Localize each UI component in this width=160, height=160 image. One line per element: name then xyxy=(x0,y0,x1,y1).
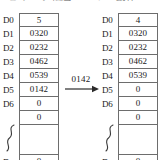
table-row-ellipsis xyxy=(101,125,158,155)
table-row: D1 0320 xyxy=(101,27,158,41)
table-row: D3 0462 xyxy=(101,55,158,69)
register-value: 0142 xyxy=(19,83,59,97)
register-value: 4 xyxy=(118,13,158,27)
table-row: Dn 0 xyxy=(101,155,158,160)
table-row: D4 0539 xyxy=(101,69,158,83)
register-value: 0320 xyxy=(118,27,158,41)
caption-text: ① データ転送 — シフト動作 xyxy=(8,0,136,3)
register-label: D5 xyxy=(101,83,118,97)
register-value: 0 xyxy=(19,111,59,125)
register-label xyxy=(101,125,118,155)
register-value: 0 xyxy=(118,155,158,160)
register-label: D6 xyxy=(2,97,19,111)
register-value: 0320 xyxy=(19,27,59,41)
table-row: D6 0 xyxy=(101,97,158,111)
table-row: 0 xyxy=(101,111,158,125)
register-label: D2 xyxy=(101,41,118,55)
register-table-after: D0 4 D1 0320 D2 0232 D3 0462 D4 0539 D5 … xyxy=(101,13,158,160)
series-break-squiggle-icon xyxy=(102,123,118,153)
register-value: 0 xyxy=(19,155,59,160)
register-value: 0462 xyxy=(19,55,59,69)
register-label: D2 xyxy=(2,41,19,55)
register-label: D4 xyxy=(101,69,118,83)
table-row-ellipsis xyxy=(2,125,59,155)
table-row: 0 xyxy=(2,111,59,125)
table-row: D2 0232 xyxy=(101,41,158,55)
register-label xyxy=(2,125,19,155)
series-break-squiggle-icon xyxy=(3,123,19,153)
register-value: 0 xyxy=(118,111,158,125)
table-row: D0 5 xyxy=(2,13,59,27)
table-row: D0 4 xyxy=(101,13,158,27)
register-value: 0539 xyxy=(19,69,59,83)
register-label: D0 xyxy=(101,13,118,27)
register-label: Dn xyxy=(101,155,118,160)
register-label: D0 xyxy=(2,13,19,27)
register-value: 0 xyxy=(118,97,158,111)
register-label: D3 xyxy=(101,55,118,69)
register-value: 0232 xyxy=(118,41,158,55)
register-value: 0 xyxy=(19,97,59,111)
register-value: 0462 xyxy=(118,55,158,69)
register-label: D3 xyxy=(2,55,19,69)
register-value xyxy=(19,125,59,155)
table-row: D6 0 xyxy=(2,97,59,111)
register-label xyxy=(2,111,19,125)
register-label: D1 xyxy=(101,27,118,41)
table-row: D4 0539 xyxy=(2,69,59,83)
table-row: D3 0462 xyxy=(2,55,59,69)
register-label: D5 xyxy=(2,83,19,97)
register-value: 0 xyxy=(118,83,158,97)
table-row: D5 0 xyxy=(101,83,158,97)
register-label: D6 xyxy=(101,97,118,111)
register-value: 5 xyxy=(19,13,59,27)
table-row: D2 0232 xyxy=(2,41,59,55)
register-table-before: D0 5 D1 0320 D2 0232 D3 0462 D4 0539 D5 … xyxy=(2,13,59,160)
transfer-value-label: 0142 xyxy=(64,74,98,85)
register-value: 0232 xyxy=(19,41,59,55)
register-label: D4 xyxy=(2,69,19,83)
table-row: D5 0142 xyxy=(2,83,59,97)
register-label xyxy=(101,111,118,125)
transfer-arrow-group: 0142 xyxy=(64,74,100,92)
register-value: 0539 xyxy=(118,69,158,83)
table-row: Dn 0 xyxy=(2,155,59,160)
register-label: Dn xyxy=(2,155,19,160)
register-label: D1 xyxy=(2,27,19,41)
table-row: D1 0320 xyxy=(2,27,59,41)
arrow-right-icon xyxy=(65,85,99,93)
register-value xyxy=(118,125,158,155)
clipped-caption-strip: ① データ転送 — シフト動作 xyxy=(0,0,160,5)
